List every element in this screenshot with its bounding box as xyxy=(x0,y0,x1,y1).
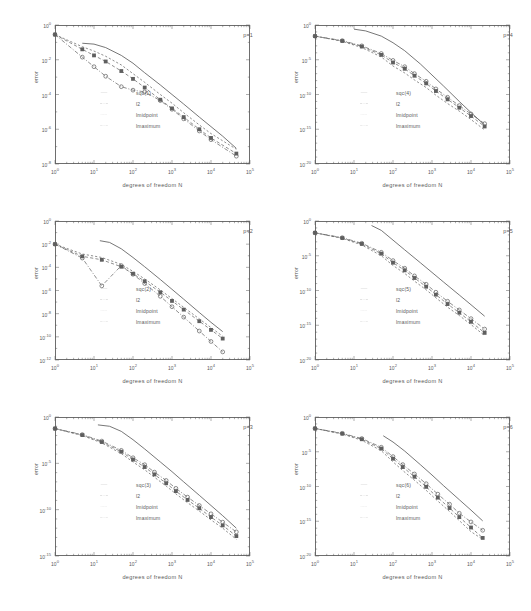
legend-label: sqc(1) xyxy=(136,90,151,96)
panel-p4: 10010-510-1010-1510-20100101102103104105… xyxy=(282,12,527,208)
data-marker xyxy=(182,308,186,312)
x-tick-label: 105 xyxy=(506,559,514,567)
y-tick-label: 10-10 xyxy=(21,506,51,514)
legend-key xyxy=(80,92,128,93)
legend-key xyxy=(340,114,388,115)
legend-key xyxy=(80,310,128,311)
legend-key xyxy=(340,517,388,518)
x-tick-label: 102 xyxy=(389,363,397,371)
legend-label: lmidpoint xyxy=(396,504,418,510)
x-tick-label: 105 xyxy=(506,363,514,371)
x-tick-label: 105 xyxy=(246,559,254,567)
y-tick-label: 10-20 xyxy=(281,552,311,560)
x-tick-label: 105 xyxy=(246,363,254,371)
x-tick-label: 104 xyxy=(467,167,475,175)
y-tick-label: 10-12 xyxy=(21,356,51,364)
y-tick-label: 10-20 xyxy=(281,356,311,364)
legend-key xyxy=(340,288,388,289)
legend-key xyxy=(80,125,128,126)
data-marker xyxy=(457,515,461,519)
legend-key xyxy=(340,310,388,311)
data-marker xyxy=(197,319,201,323)
legend-label: l2 xyxy=(396,101,400,107)
data-marker xyxy=(234,534,238,538)
legend-key xyxy=(340,506,388,507)
legend-label: l2 xyxy=(396,297,400,303)
x-tick-label: 100 xyxy=(51,167,59,175)
x-axis-label: degrees of freedom N xyxy=(315,378,510,384)
data-marker xyxy=(80,47,84,51)
series-line-sqc5 xyxy=(372,226,485,317)
figure-canvas: 10010-210-410-610-8100101102103104105err… xyxy=(0,0,531,611)
x-tick-label: 101 xyxy=(350,559,358,567)
legend-key xyxy=(80,288,128,289)
legend-key xyxy=(340,321,388,322)
y-tick-label: 100 xyxy=(281,217,311,225)
x-tick-label: 105 xyxy=(246,167,254,175)
y-tick-label: 10-2 xyxy=(21,240,51,248)
y-tick-label: 10-8 xyxy=(21,160,51,168)
legend-label: lmaximum xyxy=(396,123,420,129)
legend-label: lmidpoint xyxy=(136,308,158,314)
x-tick-label: 104 xyxy=(207,559,215,567)
x-tick-label: 103 xyxy=(168,363,176,371)
y-axis-label: error xyxy=(33,54,39,100)
panel-p2: 10010-210-410-610-810-1010-1210010110210… xyxy=(22,208,267,404)
plot-area xyxy=(55,417,250,556)
x-tick-label: 102 xyxy=(129,167,137,175)
data-marker xyxy=(158,294,162,298)
x-tick-label: 101 xyxy=(90,167,98,175)
legend-key xyxy=(80,103,128,104)
y-tick-label: 10-6 xyxy=(21,125,51,133)
legend-label: sqc(5) xyxy=(396,286,411,292)
series-line-sqc1 xyxy=(82,43,236,148)
plot-area xyxy=(55,25,250,164)
legend-key xyxy=(80,517,128,518)
x-tick-label: 103 xyxy=(428,363,436,371)
legend-label: l2 xyxy=(136,297,140,303)
legend-key xyxy=(340,484,388,485)
x-tick-label: 105 xyxy=(506,167,514,175)
x-tick-label: 103 xyxy=(168,167,176,175)
data-marker xyxy=(197,329,201,333)
x-tick-label: 101 xyxy=(350,363,358,371)
panel-title: p=3 xyxy=(243,424,253,430)
legend-key xyxy=(80,495,128,496)
y-axis-label: error xyxy=(293,54,299,100)
data-marker xyxy=(469,526,473,530)
y-tick-label: 10-15 xyxy=(21,552,51,560)
y-axis-label: error xyxy=(33,250,39,296)
x-tick-label: 100 xyxy=(51,559,59,567)
y-tick-label: 100 xyxy=(21,413,51,421)
x-tick-label: 102 xyxy=(389,559,397,567)
x-tick-label: 102 xyxy=(389,167,397,175)
x-tick-label: 102 xyxy=(129,363,137,371)
series-line-sqc2 xyxy=(100,241,223,332)
panel-title: p=4 xyxy=(503,32,513,38)
y-tick-label: 10-8 xyxy=(21,310,51,318)
series-line-lmaximum xyxy=(315,36,485,124)
panel-title: p=2 xyxy=(243,228,253,234)
legend-label: lmaximum xyxy=(136,515,160,521)
plot-area xyxy=(315,221,510,360)
data-marker xyxy=(436,492,440,496)
panel-p5: 10010-510-1010-1510-20100101102103104105… xyxy=(282,208,527,404)
legend-label: lmaximum xyxy=(396,319,420,325)
data-marker xyxy=(100,284,104,288)
data-marker xyxy=(483,327,487,331)
x-tick-label: 100 xyxy=(311,559,319,567)
legend-label: l2 xyxy=(136,101,140,107)
data-marker xyxy=(143,86,147,90)
legend-key xyxy=(340,495,388,496)
x-tick-label: 101 xyxy=(90,559,98,567)
x-tick-label: 104 xyxy=(467,559,475,567)
data-marker xyxy=(92,65,96,69)
data-marker xyxy=(119,69,123,73)
y-tick-label: 10-15 xyxy=(281,321,311,329)
panel-p3: 10010-510-1010-15100101102103104105error… xyxy=(22,404,267,600)
panel-title: p=1 xyxy=(243,32,253,38)
data-marker xyxy=(131,77,135,81)
legend-label: lmaximum xyxy=(396,515,420,521)
series-line-l2 xyxy=(315,233,485,333)
y-axis-label: error xyxy=(293,250,299,296)
